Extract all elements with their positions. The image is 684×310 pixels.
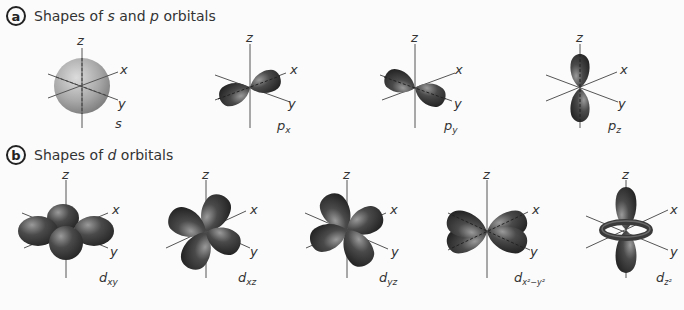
svg-text:y: y (617, 96, 626, 111)
svg-text:z: z (61, 167, 70, 182)
orbital-label-px: px (276, 118, 291, 135)
svg-text:z: z (342, 167, 351, 182)
orbital-s: z x y s (48, 33, 128, 131)
orbital-label-dz2: dz² (656, 270, 672, 287)
orbital-dxy: z x y dxy (18, 167, 120, 287)
orbital-dyz: z x y dyz (305, 167, 399, 287)
axis-x-label: x (119, 62, 128, 77)
svg-text:x: x (389, 202, 398, 217)
svg-text:y: y (249, 244, 258, 259)
svg-text:x: x (531, 202, 540, 217)
svg-text:z: z (621, 167, 630, 182)
orbital-label-py: py (443, 118, 458, 135)
svg-text:x: x (454, 62, 463, 77)
svg-text:z: z (245, 30, 254, 45)
svg-text:x: x (669, 202, 678, 217)
orbital-label-dyz: dyz (379, 270, 398, 287)
svg-text:x: x (619, 62, 628, 77)
svg-text:z: z (410, 30, 419, 45)
orbital-py: z x y py (380, 30, 463, 135)
orbital-dxz: z x y dxz (164, 167, 258, 287)
orbital-label-pz: pz (607, 118, 621, 135)
svg-text:y: y (453, 96, 462, 111)
svg-text:z: z (482, 167, 491, 182)
orbital-label-dxz: dxz (238, 270, 257, 287)
svg-text:y: y (287, 96, 296, 111)
orbital-label-dxy: dxy (99, 270, 119, 287)
orbital-pz: z x y pz (546, 30, 628, 135)
axis-z-label: z (76, 33, 85, 48)
svg-text:y: y (669, 244, 678, 259)
axis-y-label: y (117, 96, 126, 111)
svg-text:y: y (109, 244, 118, 259)
orbital-px: z x y px (215, 30, 298, 135)
svg-text:x: x (249, 202, 258, 217)
orbital-diagram: z x y s z x y px z x y py z (0, 0, 684, 310)
orbital-label-s: s (115, 116, 122, 131)
svg-text:z: z (575, 30, 584, 45)
svg-text:x: x (289, 62, 298, 77)
orbital-label-dx2-y2: dx²−y² (514, 270, 546, 287)
orbital-dx2-y2: z x y dx²−y² (443, 167, 545, 287)
orbital-dz2: z x y dz² (586, 167, 678, 287)
svg-text:z: z (201, 167, 210, 182)
svg-text:y: y (390, 244, 399, 259)
svg-text:y: y (529, 244, 538, 259)
svg-text:x: x (111, 202, 120, 217)
